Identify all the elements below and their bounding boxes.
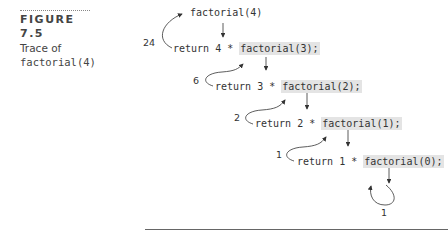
return-value-2: 2 xyxy=(234,112,240,123)
trace-step-4: return 1 * factorial(0); xyxy=(297,155,444,168)
step-4-prefix: return 1 * xyxy=(297,156,363,167)
bottom-rule xyxy=(145,229,448,230)
step-1-prefix: return 4 * xyxy=(173,43,239,54)
step-3-call: factorial(1); xyxy=(321,117,401,130)
step-2-prefix: return 3 * xyxy=(215,81,281,92)
return-value-24: 24 xyxy=(143,37,155,48)
trace-step-1: return 4 * factorial(3); xyxy=(173,42,320,55)
base-return-value: 1 xyxy=(381,207,387,218)
step-2-call: factorial(2); xyxy=(281,80,361,93)
trace-step-3: return 2 * factorial(1); xyxy=(255,117,402,130)
trace-step-2: return 3 * factorial(2); xyxy=(215,80,362,93)
initial-call: factorial(4) xyxy=(190,6,262,19)
step-4-call: factorial(0); xyxy=(363,155,443,168)
return-value-1: 1 xyxy=(276,149,282,160)
return-value-6: 6 xyxy=(193,75,199,86)
step-1-call: factorial(3); xyxy=(239,42,319,55)
step-3-prefix: return 2 * xyxy=(255,118,321,129)
